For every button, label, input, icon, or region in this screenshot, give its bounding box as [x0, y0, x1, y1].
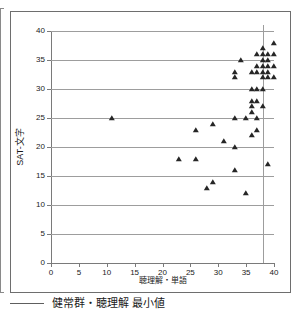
adjacent-figure-edge [0, 8, 4, 293]
gridline-y-5 [51, 234, 274, 235]
chart-figure-frame: 0510152025303540 0510152025303540 聴理解・単語… [10, 11, 291, 293]
y-tick-label-10: 10 [36, 201, 45, 209]
data-point-marker [243, 191, 249, 196]
data-point-marker [271, 40, 277, 45]
gridline-y-25 [51, 118, 274, 119]
data-point-marker [248, 133, 254, 138]
data-point-marker [248, 104, 254, 109]
y-tick-label-15: 15 [36, 172, 45, 180]
y-tick-25 [47, 118, 51, 119]
data-point-marker [109, 115, 115, 120]
y-tick-20 [47, 147, 51, 148]
data-point-marker [221, 138, 227, 143]
x-tick-label-35: 35 [242, 269, 251, 277]
data-point-marker [260, 104, 266, 109]
data-point-marker [271, 75, 277, 80]
gridline-y-10 [51, 205, 274, 206]
data-point-marker [232, 144, 238, 149]
data-point-marker [204, 185, 210, 190]
y-tick-label-0: 0 [41, 259, 45, 267]
y-tick-label-5: 5 [41, 230, 45, 238]
data-point-marker [254, 98, 260, 103]
x-tick-label-0: 0 [49, 269, 53, 277]
gridline-y-30 [51, 89, 274, 90]
data-point-marker [176, 156, 182, 161]
x-tick-20 [163, 263, 164, 267]
data-point-marker [232, 69, 238, 74]
x-tick-label-15: 15 [130, 269, 139, 277]
y-tick-label-40: 40 [36, 27, 45, 35]
x-tick-0 [51, 263, 52, 267]
y-tick-label-35: 35 [36, 56, 45, 64]
y-tick-label-25: 25 [36, 114, 45, 122]
x-tick-5 [79, 263, 80, 267]
data-point-marker [265, 162, 271, 167]
x-tick-label-10: 10 [102, 269, 111, 277]
y-tick-5 [47, 234, 51, 235]
data-point-marker [209, 179, 215, 184]
data-point-marker [193, 156, 199, 161]
gridline-y-40 [51, 31, 274, 32]
x-tick-35 [246, 263, 247, 267]
data-point-marker [232, 75, 238, 80]
y-tick-label-20: 20 [36, 143, 45, 151]
data-point-marker [265, 69, 271, 74]
data-point-marker [243, 115, 249, 120]
data-point-marker [209, 121, 215, 126]
data-point-marker [265, 57, 271, 62]
x-tick-40 [274, 263, 275, 267]
data-point-marker [232, 167, 238, 172]
data-point-marker [254, 115, 260, 120]
gridline-y-15 [51, 176, 274, 177]
chart-legend: 健常群・聴理解 最小値 [10, 298, 165, 309]
data-point-marker [193, 127, 199, 132]
x-tick-25 [190, 263, 191, 267]
data-point-marker [232, 115, 238, 120]
data-point-marker [260, 46, 266, 51]
x-tick-15 [135, 263, 136, 267]
data-point-marker [271, 51, 277, 56]
x-tick-30 [218, 263, 219, 267]
data-point-marker [271, 63, 277, 68]
scatter-plot-area: 0510152025303540 0510152025303540 [51, 31, 274, 263]
y-tick-30 [47, 89, 51, 90]
x-tick-10 [107, 263, 108, 267]
y-tick-label-30: 30 [36, 85, 45, 93]
legend-label: 健常群・聴理解 最小値 [52, 298, 165, 309]
x-tick-label-30: 30 [214, 269, 223, 277]
data-point-marker [254, 127, 260, 132]
y-tick-35 [47, 60, 51, 61]
legend-line-swatch [10, 303, 44, 304]
data-point-marker [237, 57, 243, 62]
y-tick-15 [47, 176, 51, 177]
gridline-y-20 [51, 147, 274, 148]
data-point-marker [248, 109, 254, 114]
data-point-marker [260, 86, 266, 91]
x-axis-title: 聴理解・単語 [51, 277, 274, 285]
x-tick-label-25: 25 [186, 269, 195, 277]
y-tick-10 [47, 205, 51, 206]
y-axis-title: SAT-文字 [16, 128, 25, 165]
x-tick-label-5: 5 [77, 269, 81, 277]
y-tick-40 [47, 31, 51, 32]
x-tick-label-40: 40 [270, 269, 279, 277]
